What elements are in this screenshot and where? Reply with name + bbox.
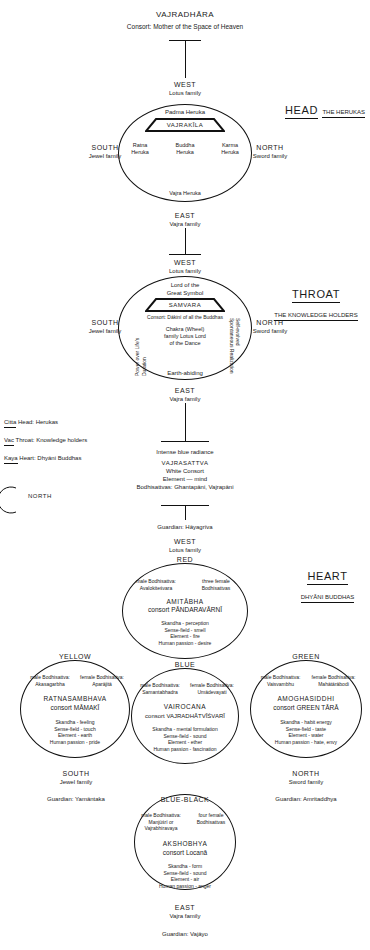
connector-vajrasattva-down — [185, 505, 186, 520]
amitabha-male-bodhisattva: male Bodhisattva: Avalokiteśvara — [128, 578, 184, 591]
legend-text-kaya: Heart: Dhyāni Buddhas — [19, 455, 81, 461]
vairocana-color: BLUE — [140, 660, 230, 669]
akshobhya-attrs: Skandha - form Sense-field - sound Eleme… — [137, 863, 233, 889]
buddha-heruka: BuddhaHeruka — [165, 142, 205, 156]
amoghasiddhi-female-label: female Bodhisattva: — [307, 674, 360, 681]
chakra-line2: family Lotus Lord — [145, 333, 225, 340]
heart-right-family: Sword family — [258, 778, 354, 786]
vajra-heruka: Vajra Heruka — [135, 190, 235, 197]
head-label: HEAD — [285, 104, 318, 119]
akshobhya-male-label: male Bodhisattva: — [136, 812, 186, 819]
lord-line1: Lord of the — [140, 281, 230, 289]
head-top-family: Lotus family — [135, 89, 235, 97]
vajrasattva-radiance: Intense blue radiance — [95, 448, 275, 456]
heart-sublabel: DHYĀNI BUDDHAS — [301, 593, 355, 603]
chakra-line3: of the Dance — [145, 340, 225, 347]
akshobhya-male-bodhisattva: male Bodhisattva: Manjūśrī orVajrabhirav… — [136, 812, 186, 832]
vairocana-female-name: Umādevayati — [186, 689, 238, 696]
vajrasattva-name: VAJRASATTVA — [95, 459, 275, 467]
akshobhya-consort: consort Locanā — [134, 849, 236, 858]
heart-top-family: Lotus family — [135, 546, 235, 554]
akshobhya-name: AKSHOBHYA — [134, 840, 236, 849]
amoghasiddhi-color: GREEN — [261, 652, 351, 661]
throat-label: THROAT — [292, 288, 340, 303]
akshobhya-attr-3: Human passion - anger — [137, 883, 233, 890]
throat-top-direction-group: WEST Lotus family — [135, 258, 235, 275]
head-right-family: Sword family — [240, 152, 300, 160]
lord-line2: Great Symbol — [140, 289, 230, 297]
earth-abiding: Earth-abiding — [135, 369, 235, 377]
guardian-hayagriva: Guardian: Hāyagrīva — [125, 523, 245, 531]
heart-right-direction-group: NORTH Sword family Guardian: Amritaddhya — [258, 769, 354, 803]
vairocana-female-label: female Bodhisattva: — [186, 682, 238, 689]
amoghasiddhi-male-name: Vaisvambhu — [254, 681, 307, 688]
head-left-direction: SOUTH — [75, 143, 135, 152]
vairocana-attr-3: Human passion - fascination — [133, 746, 237, 753]
throat-left-direction: SOUTH — [75, 318, 135, 327]
ratnasambhava-female-label: female Bodhisattva: — [76, 674, 128, 681]
side-arc-mark-icon — [0, 486, 22, 514]
vajrasattva-element: Element — mind — [95, 475, 275, 483]
ratnasambhava-attrs: Skandha - feeling Sense-field - touch El… — [24, 719, 126, 745]
vairocana-male-name: Samantabhadra — [134, 689, 186, 696]
chakra-family-center: Chakra (Wheel) family Lotus Lord of the … — [145, 326, 225, 347]
akshobhya-female-bodhisattva: four female Bodhisattvas — [186, 812, 236, 825]
amitabha-male-label: male Bodhisattva: — [128, 578, 184, 585]
lord-great-symbol: Lord of the Great Symbol — [140, 281, 230, 297]
vajrasattva-group: Intense blue radiance VAJRASATTVA White … — [95, 448, 275, 491]
amitabha-attr-3: Human passion - desire — [128, 640, 242, 647]
vairocana-attrs: Skandha - mental formulation Sense-field… — [133, 726, 237, 752]
heart-right-direction: NORTH — [258, 769, 354, 778]
heart-bottom-direction-group: EAST Vajra family Guardian: Vajāyo — [135, 903, 235, 938]
amoghasiddhi-male-bodhisattva: male Bodhisattva: Vaisvambhu — [254, 674, 307, 687]
throat-right-direction: NORTH — [240, 318, 300, 327]
amoghasiddhi-female-bodhisattva: female Bodhisattva: Mahātārābodi — [307, 674, 360, 687]
heart-bottom-direction: EAST — [135, 903, 235, 912]
akshobhya-male-name: Manjūśrī orVajrabhiravaya — [136, 819, 186, 832]
connector-throat-heart-vertical — [185, 403, 186, 441]
ratnasambhava-female-bodhisattva: female Bodhisattva: Aparājitā — [76, 674, 128, 687]
akshobhya-female-name: Bodhisattvas — [186, 819, 236, 826]
heart-left-guardian: Guardian: Yamāntaka — [30, 795, 122, 803]
ratnasambhava-consort: consort MĀMAKĪ — [20, 704, 130, 713]
vairocana-consort: consort VAJRADHĀTVĪŚVARĪ — [127, 712, 243, 720]
legend-term-kaya: Kaya — [4, 454, 18, 464]
head-sublabel: THE HERUKAS — [322, 108, 365, 118]
heart-label-group: HEART DHYĀNI BUDDHAS — [285, 566, 370, 603]
throat-left-family: Jewel family — [75, 327, 135, 335]
amoghasiddhi-name: AMOGHASIDDHI — [250, 695, 362, 704]
ratnasambhava-name: RATNASAMBHAVA — [20, 695, 130, 704]
head-bottom-direction-group: EAST Vajra family — [135, 211, 235, 228]
akshobhya-color: BLUE-BLACK — [140, 795, 230, 804]
throat-label-group: THROAT THE KNOWLEDGE HOLDERS — [262, 284, 370, 321]
amitabha-female-bodhisattva: three female Bodhisattvas — [188, 578, 244, 591]
throat-top-family: Lotus family — [135, 267, 235, 275]
throat-left-direction-group: SOUTH Jewel family — [75, 318, 135, 335]
head-left-family: Jewel family — [75, 152, 135, 160]
amoghasiddhi-male-label: male Bodhisattva: — [254, 674, 307, 681]
legend-item-citta: Citta Head: Herukas — [4, 418, 124, 428]
throat-top-direction: WEST — [135, 258, 235, 267]
amitabha-attrs: Skandha - perception Sense-field - smell… — [128, 620, 242, 646]
head-right-direction-group: NORTH Sword family — [240, 143, 300, 160]
amoghasiddhi-consort: consort GREEN TĀRĀ — [250, 704, 362, 713]
ratnasambhava-male-label: male Bodhisattva: — [24, 674, 76, 681]
legend-text-citta: Head: Herukas — [18, 419, 58, 425]
throat-bottom-direction: EAST — [135, 386, 235, 395]
connector-vajrasattva-top — [161, 441, 209, 442]
throat-bottom-direction-group: EAST Vajra family — [135, 386, 235, 403]
vajradhara-title: VAJRADHĀRA Consort: Mother of the Space … — [100, 10, 270, 32]
legend-text-vac: Throat: Knowledge holders — [15, 437, 87, 443]
heart-top-direction: WEST — [135, 537, 235, 546]
amoghasiddhi-attrs: Skandha - habit energy Sense-field - tas… — [254, 719, 358, 745]
head-bottom-family: Vajra family — [135, 220, 235, 228]
amitabha-female-name: Bodhisattvas — [188, 585, 244, 592]
head-label-group: HEAD THE HERUKAS — [285, 100, 365, 119]
ratnasambhava-male-bodhisattva: male Bodhisattva: Akasagarbha — [24, 674, 76, 687]
legend-item-vac: Vac Throat: Knowledge holders — [4, 436, 124, 446]
vajradhara-consort: Consort: Mother of the Space of Heaven — [100, 23, 270, 32]
throat-bottom-family: Vajra family — [135, 395, 235, 403]
heart-right-guardian: Guardian: Amritaddhya — [258, 795, 354, 803]
head-bottom-direction: EAST — [135, 211, 235, 220]
head-top-direction: WEST — [135, 80, 235, 89]
